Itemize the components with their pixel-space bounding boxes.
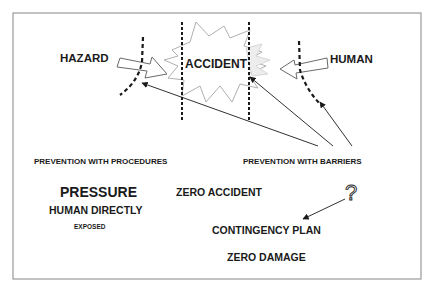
pressure-label: PRESSURE xyxy=(60,184,137,200)
accident-label: ACCIDENT xyxy=(185,57,248,71)
prevention-procedures-label: PREVENTION WITH PROCEDURES xyxy=(34,157,168,166)
question-mark-icon: ? xyxy=(345,180,357,205)
human-directly-label: HUMAN DIRECTLY xyxy=(49,204,143,216)
zero-accident-label: ZERO ACCIDENT xyxy=(176,186,263,198)
contingency-plan-label: CONTINGENCY PLAN xyxy=(212,224,321,236)
barrier-diagram: HAZARD HUMAN ACCIDENT PREVENTION WITH PR… xyxy=(0,0,434,292)
zero-damage-label: ZERO DAMAGE xyxy=(227,251,306,263)
hazard-label: HAZARD xyxy=(60,52,109,64)
exposed-label: EXPOSED xyxy=(74,223,106,230)
prevention-barriers-label: PREVENTION WITH BARRIERS xyxy=(243,157,362,166)
human-label: HUMAN xyxy=(330,53,373,65)
